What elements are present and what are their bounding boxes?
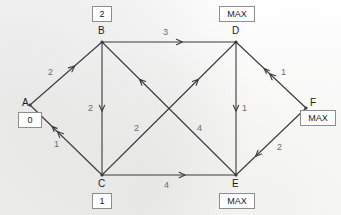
edge-capacity-c-e: 4 (164, 181, 169, 190)
node-label-d: D (232, 26, 239, 36)
node-value-box-d: MAX (219, 6, 255, 22)
edge-capacity-b-d: 3 (163, 28, 168, 37)
node-label-e: E (232, 179, 239, 189)
edge-capacity-a-b: 2 (48, 68, 53, 77)
node-value-box-e: MAX (219, 193, 255, 209)
edge-capacity-b-c: 2 (88, 104, 93, 113)
edge-b-c (99, 42, 104, 175)
diagram-canvas: A0B2C1DMAXEMAXFMAX 2132142412 (0, 0, 341, 215)
edge-capacity-c-a: 1 (54, 140, 59, 149)
node-point-c (100, 173, 103, 176)
edge-capacity-c-d: 4 (197, 124, 202, 133)
node-point-d (234, 40, 237, 43)
node-label-c: C (98, 179, 105, 189)
edge-capacity-e-b: 2 (134, 124, 139, 133)
node-value-box-c: 1 (92, 193, 112, 209)
node-value-box-a: 0 (18, 112, 42, 128)
edge-b-d (102, 39, 236, 44)
edge-capacity-f-d: 1 (281, 68, 286, 77)
node-point-b (100, 40, 103, 43)
edge-f-e (236, 108, 306, 175)
node-label-f: F (310, 98, 316, 108)
edge-capacity-f-e: 2 (277, 143, 282, 152)
node-value-box-b: 2 (92, 6, 112, 22)
edge-f-d (236, 42, 306, 108)
node-value-box-f: MAX (300, 110, 336, 126)
edge-capacity-d-e: 1 (242, 104, 247, 113)
node-point-e (234, 173, 237, 176)
edge-d-e (233, 42, 238, 175)
node-label-b: B (98, 26, 105, 36)
edge-a-b (30, 42, 102, 105)
node-label-a: A (22, 98, 29, 108)
graph-edges-layer (0, 0, 341, 215)
edge-c-e (102, 172, 236, 177)
